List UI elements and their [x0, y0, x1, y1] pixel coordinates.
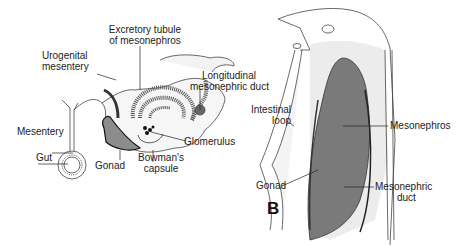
label-longitudinal-mesonephric-duct: Longitudinal mesonephric duct	[190, 70, 269, 92]
label-intestinal-loop: Intestinal loop	[245, 104, 291, 126]
panel-b-longitudinal	[260, 8, 395, 245]
label-mesonephros: Mesonephros	[390, 120, 451, 131]
label-gonad-b: Gonad	[256, 180, 286, 191]
label-glomerulus: Glomerulus	[184, 136, 235, 147]
label-gonad-a: Gonad	[95, 160, 125, 171]
label-bowmans-capsule: Bowman's capsule	[136, 152, 186, 174]
label-urogenital-mesentery: Urogenital mesentery	[42, 50, 89, 72]
label-excretory-tubule: Excretory tubule of mesonephros	[107, 24, 183, 46]
label-mesonephric-duct: Mesonephric duct	[375, 181, 432, 203]
label-gut: Gut	[36, 152, 52, 163]
panel-b-letter: B	[267, 199, 279, 219]
label-mesentery: Mesentery	[17, 126, 64, 137]
